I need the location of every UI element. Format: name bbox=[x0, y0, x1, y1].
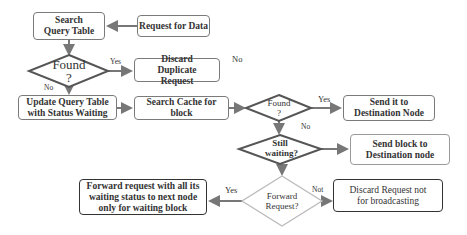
discard-duplicate-node: Discard Duplicate Request bbox=[134, 58, 220, 82]
still-waiting-decision: Still waiting? bbox=[265, 138, 295, 158]
found-decision-2: Found ? bbox=[265, 98, 293, 118]
found1-no-label: No bbox=[44, 83, 53, 92]
top-no-label: No bbox=[232, 54, 242, 64]
update-query-table-node: Update Query Table with Status Waiting bbox=[18, 95, 117, 120]
search-cache-node: Search Cache for block bbox=[134, 96, 229, 120]
discard-request-node: Discard Request not for broadcasting bbox=[333, 179, 443, 212]
forward-request-decision: Forward Request? bbox=[260, 191, 304, 211]
found2-yes-label: Yes bbox=[318, 94, 330, 104]
send-it-destination-node: Send it to Destination Node bbox=[343, 95, 435, 121]
request-for-data-node: Request for Data bbox=[137, 15, 210, 37]
forward-request-action-node: Forward request with all its waiting sta… bbox=[79, 179, 207, 215]
found-decision-1: Found ? bbox=[52, 58, 86, 84]
found1-yes-label: Yes bbox=[110, 57, 121, 66]
search-query-table-node: Search Query Table bbox=[33, 12, 105, 40]
send-block-destination-node: Send block to Destination node bbox=[350, 134, 450, 165]
found2-no-label: No bbox=[301, 122, 310, 131]
forward-not-label: Not bbox=[312, 185, 323, 194]
forward-yes-label: Yes bbox=[225, 185, 237, 195]
